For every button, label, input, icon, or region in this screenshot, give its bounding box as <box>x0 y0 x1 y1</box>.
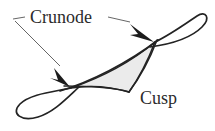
curve-lower-left-loop <box>16 87 79 119</box>
shaded-cusp-region <box>71 42 155 92</box>
crunode-leader-dash <box>13 17 25 19</box>
crunode-leader-line-right <box>108 17 130 22</box>
crunode-lower-arrowhead <box>50 68 70 87</box>
crunode-leader-line-left <box>15 21 60 66</box>
crunode-label: Crunode <box>30 8 92 26</box>
figure-container: Crunode Cusp <box>0 0 215 131</box>
crunode-upper-arrowhead <box>130 24 154 42</box>
curve-upper-right-loop <box>150 14 207 47</box>
cusp-label: Cusp <box>140 89 177 107</box>
